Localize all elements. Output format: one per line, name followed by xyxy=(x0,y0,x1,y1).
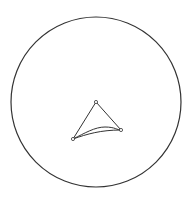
edge-bottom-lower-curve xyxy=(73,130,121,139)
vertex-right xyxy=(119,128,122,131)
edge-top-right xyxy=(96,102,121,130)
triangle-figure xyxy=(71,100,122,140)
edge-bottom-upper-curve xyxy=(73,127,121,139)
vertex-top xyxy=(94,100,97,103)
diagram-canvas xyxy=(0,0,191,203)
vertex-left xyxy=(71,137,74,140)
